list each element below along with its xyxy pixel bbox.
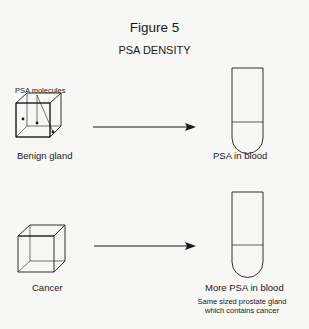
psa-in-blood-label: PSA in blood: [213, 150, 267, 161]
benign-gland-cube: [16, 93, 63, 137]
callout-line: [37, 95, 53, 132]
blood-tube-benign: [232, 68, 263, 154]
figure-subtitle: PSA DENSITY: [0, 44, 309, 56]
figure-title: Figure 5: [0, 20, 309, 35]
psa-molecules-callout: PSA molecules: [15, 86, 65, 95]
more-psa-in-blood-label: More PSA in blood: [205, 282, 284, 293]
cancer-label: Cancer: [32, 282, 63, 293]
benign-gland-label: Benign gland: [17, 150, 72, 161]
psa-molecule-dots: [22, 118, 55, 146]
blood-tube-cancer: [232, 192, 263, 278]
cancer-gland-cube: [18, 225, 65, 272]
note-line-1: Same sized prostate gland: [195, 297, 289, 306]
note-line-2: which contains cancer: [195, 306, 289, 315]
